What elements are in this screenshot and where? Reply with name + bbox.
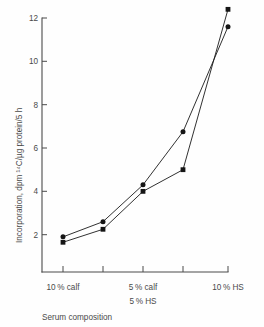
y-tick-label: 8 [33, 101, 38, 110]
y-tick-label: 6 [33, 144, 38, 153]
x-label-5pct-calf: 5 % calf [129, 283, 158, 292]
series-line-circle [63, 27, 228, 237]
x-label-5pct-hs: 5 % HS [129, 297, 157, 306]
y-tick-labels: 12 10 8 6 4 2 [29, 14, 39, 240]
y-tick-label: 12 [29, 14, 39, 23]
y-tick-label: 10 [29, 57, 39, 66]
x-label-10pct-hs: 10 % HS [212, 283, 244, 292]
x-tick-marks [63, 266, 228, 272]
x-axis-title: Serum composition [42, 313, 113, 322]
data-point-circle [61, 234, 66, 239]
figure-page: Incorporation, dpm ¹⁴C/µg protein/5 h 12… [0, 0, 264, 327]
data-point-circle [101, 219, 106, 224]
y-tick-marks [42, 18, 47, 235]
series-markers-circle [61, 24, 231, 239]
data-point-square [101, 227, 106, 232]
x-label-10pct-calf: 10 % calf [46, 283, 80, 292]
x-category-labels: 10 % calf 5 % calf 5 % HS 10 % HS [46, 283, 244, 306]
series-markers-square [61, 7, 231, 245]
data-point-square [141, 189, 146, 194]
line-chart: Incorporation, dpm ¹⁴C/µg protein/5 h 12… [0, 0, 264, 327]
y-axis-title: Incorporation, dpm ¹⁴C/µg protein/5 h [15, 107, 24, 243]
data-point-circle [181, 129, 186, 134]
data-point-square [226, 7, 231, 12]
data-point-square [181, 167, 186, 172]
y-tick-label: 2 [33, 231, 38, 240]
y-tick-label: 4 [33, 187, 38, 196]
data-point-circle [141, 182, 146, 187]
data-point-circle [226, 24, 231, 29]
data-point-square [61, 240, 66, 245]
series-line-square [63, 9, 228, 242]
